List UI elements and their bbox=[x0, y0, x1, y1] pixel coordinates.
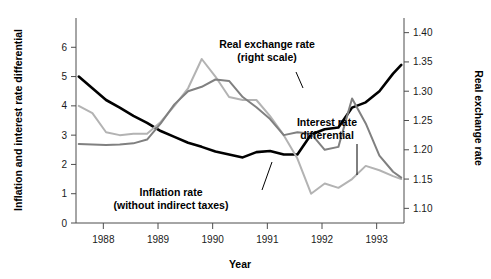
x-tick-label: 1990 bbox=[202, 234, 225, 245]
annotation-line: differential bbox=[300, 129, 354, 141]
chart-canvas: 0123456 1.101.151.201.251.301.351.40 198… bbox=[0, 0, 491, 279]
left-y-tick-label: 2 bbox=[61, 159, 67, 170]
annotation-real-exchange-rate: Real exchange rate(right scale) bbox=[219, 38, 315, 63]
right-y-tick-label: 1.30 bbox=[413, 86, 433, 97]
left-y-tick-label: 3 bbox=[61, 130, 67, 141]
x-axis-title: Year bbox=[229, 258, 251, 270]
leader-line-real-exchange-rate bbox=[296, 72, 303, 88]
annotation-line: Inflation rate bbox=[139, 186, 202, 198]
left-y-tick-label: 6 bbox=[61, 42, 67, 53]
right-y-tick-label: 1.35 bbox=[413, 56, 433, 67]
right-y-tick-label: 1.25 bbox=[413, 115, 433, 126]
right-y-tick-label: 1.15 bbox=[413, 174, 433, 185]
x-tick-label: 1989 bbox=[147, 234, 170, 245]
annotation-line: Real exchange rate bbox=[219, 38, 315, 50]
right-y-tick-group: 1.101.151.201.251.301.351.40 bbox=[404, 27, 433, 214]
leader-line-inflation-rate bbox=[262, 162, 272, 190]
left-y-tick-label: 4 bbox=[61, 100, 67, 111]
right-y-tick-label: 1.20 bbox=[413, 144, 433, 155]
right-y-tick-label: 1.10 bbox=[413, 203, 433, 214]
annotation-line: (without indirect taxes) bbox=[114, 199, 229, 211]
left-y-tick-label: 0 bbox=[61, 218, 67, 229]
annotation-line: (right scale) bbox=[237, 51, 297, 63]
x-tick-group: 198819891990199119921993 bbox=[92, 223, 388, 245]
chart-container: 0123456 1.101.151.201.251.301.351.40 198… bbox=[0, 0, 491, 279]
left-y-tick-label: 5 bbox=[61, 71, 67, 82]
annotation-interest-rate-differential: Interest ratedifferential bbox=[297, 116, 357, 141]
x-tick-label: 1988 bbox=[92, 234, 115, 245]
annotation-line: Interest rate bbox=[297, 116, 357, 128]
left-y-tick-label: 1 bbox=[61, 188, 67, 199]
x-tick-label: 1991 bbox=[256, 234, 279, 245]
right-y-axis-title: Real exchange rate bbox=[473, 70, 485, 166]
annotation-inflation-rate: Inflation rate(without indirect taxes) bbox=[114, 186, 229, 211]
left-y-tick-group: 0123456 bbox=[61, 42, 76, 229]
x-tick-label: 1992 bbox=[311, 234, 334, 245]
right-y-tick-label: 1.40 bbox=[413, 27, 433, 38]
left-y-axis-title: Inflation and interest rate differential bbox=[12, 29, 24, 211]
x-tick-label: 1993 bbox=[366, 234, 389, 245]
